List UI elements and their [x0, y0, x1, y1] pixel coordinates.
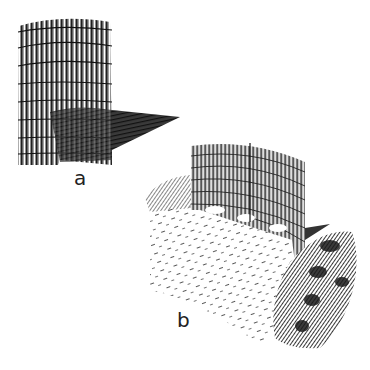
- sand-mound: [269, 224, 287, 232]
- figure-label-b: b: [177, 310, 190, 330]
- sand-mound: [205, 206, 225, 214]
- background-grass: [145, 175, 192, 212]
- figure-label-a: a: [74, 168, 86, 188]
- fence-a-inner-shadow: [50, 107, 112, 162]
- sand-mound: [237, 214, 255, 222]
- figure-a: [18, 19, 180, 165]
